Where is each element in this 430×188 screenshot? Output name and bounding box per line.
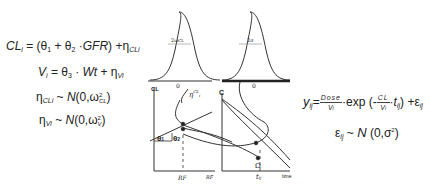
left-plot-x-tick-rf: RF	[178, 174, 187, 181]
equation-volume: Vi = θ3 · Wt + ηVi	[38, 65, 124, 79]
equation-clearance: CLi = (θ1 + θ2 ·GFR) +ηCLi	[6, 39, 140, 53]
left-plot-x-axis-label: RF	[206, 174, 213, 180]
left-gaussian-zero-label: 0	[176, 82, 180, 89]
slope-theta2-label: θ2	[173, 134, 180, 143]
equation-eta-cl-distribution: ηCLi ~ N(0,ω2CL)	[36, 90, 111, 104]
equation-eta-v-distribution: ηVi ~ N(0,ω2V)	[39, 113, 106, 127]
equation-residual-error-distribution: εij ~ N (0,σ2)	[335, 125, 399, 140]
left-plot	[150, 88, 232, 171]
eta-sample-label: ηCLi	[189, 89, 200, 99]
observation-point-label: Ω	[255, 162, 261, 170]
clearance-over-volume-fraction: CLVi	[377, 93, 390, 113]
right-gaussian	[222, 12, 290, 81]
left-gaussian-width-label: 2ωCL	[171, 37, 184, 43]
left-plot-y-axis-label: CL	[151, 86, 159, 92]
right-plot-y-axis-label: C	[219, 89, 224, 96]
right-plot-x-tick-tij: tij	[256, 173, 261, 181]
dose-over-volume-fraction: DoseVi	[320, 93, 342, 113]
equation-concentration-model: yij=DoseVi·exp (-CLVi·tij) +εij	[303, 93, 423, 113]
left-gaussian	[148, 12, 220, 81]
right-plot-x-axis-label: time	[282, 173, 291, 179]
right-gaussian-width-label: 2σ	[247, 37, 254, 43]
right-gaussian-zero-label: 0	[252, 82, 256, 89]
intercept-theta1-label: θ1	[157, 134, 164, 143]
